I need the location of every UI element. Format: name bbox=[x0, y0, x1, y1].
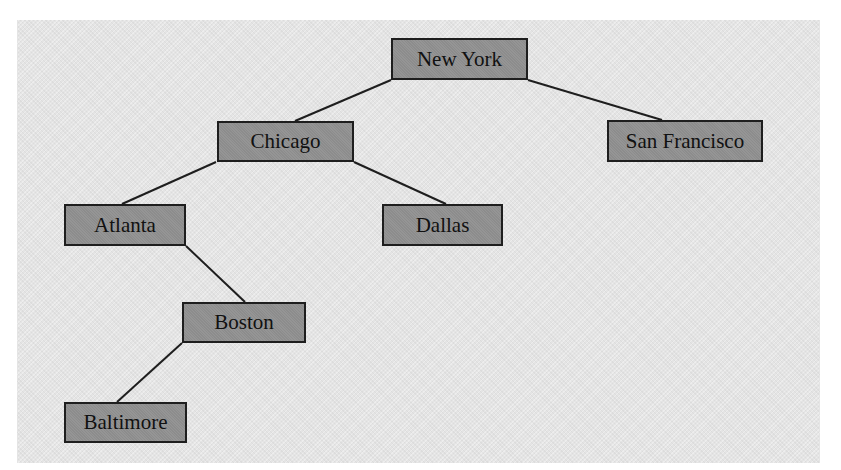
node-label: San Francisco bbox=[626, 129, 744, 154]
node-label: Atlanta bbox=[94, 213, 156, 238]
edge-new-york-to-chicago bbox=[295, 80, 391, 121]
node-dallas: Dallas bbox=[382, 204, 503, 246]
node-label: Boston bbox=[214, 310, 274, 335]
edge-boston-to-baltimore bbox=[117, 343, 182, 402]
node-label: Dallas bbox=[416, 213, 470, 238]
edge-atlanta-to-boston bbox=[186, 246, 245, 302]
node-san-francisco: San Francisco bbox=[607, 120, 763, 162]
node-label: Baltimore bbox=[84, 410, 168, 435]
node-label: Chicago bbox=[251, 129, 321, 154]
edge-chicago-to-atlanta bbox=[122, 162, 216, 204]
node-boston: Boston bbox=[182, 302, 306, 343]
node-new-york: New York bbox=[391, 38, 528, 80]
node-chicago: Chicago bbox=[217, 121, 354, 162]
edge-new-york-to-san-francisco bbox=[528, 80, 662, 120]
node-label: New York bbox=[417, 47, 502, 72]
edge-chicago-to-dallas bbox=[354, 162, 446, 204]
node-baltimore: Baltimore bbox=[64, 402, 187, 443]
node-atlanta: Atlanta bbox=[64, 204, 186, 246]
